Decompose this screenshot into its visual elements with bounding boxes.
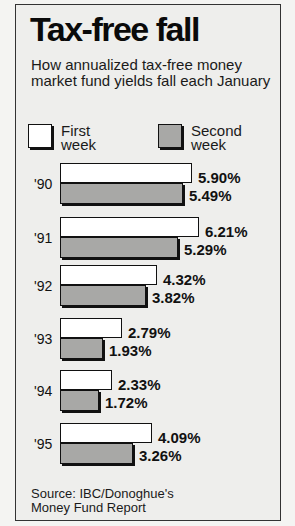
source-line2: Money Fund Report [31, 501, 174, 515]
bar-second-week [60, 285, 146, 306]
chart-frame: Tax-free fall How annualized tax-free mo… [15, 4, 281, 521]
bar-second-week [60, 183, 183, 204]
value-first-week: 2.33% [118, 376, 161, 393]
bar-first-week [60, 318, 122, 338]
bar-second-week [60, 237, 178, 258]
year-label: '95 [34, 436, 52, 452]
legend-label-line2: week [61, 138, 96, 152]
year-label: '93 [34, 331, 52, 347]
value-first-week: 2.79% [128, 324, 171, 341]
bar-second-week [60, 443, 133, 464]
value-second-week: 5.49% [189, 187, 232, 204]
chart-subtitle: How annualized tax-free money market fun… [31, 57, 271, 88]
source-line1: Source: IBC/Donoghue's [31, 487, 174, 501]
year-label: '90 [34, 176, 52, 192]
value-first-week: 4.09% [158, 429, 201, 446]
year-label: '94 [34, 383, 52, 399]
chart-title: Tax-free fall [30, 11, 199, 47]
value-second-week: 5.29% [184, 241, 227, 258]
value-first-week: 4.32% [163, 271, 206, 288]
bar-second-week [60, 390, 99, 411]
value-second-week: 1.72% [105, 394, 148, 411]
source-note: Source: IBC/Donoghue's Money Fund Report [31, 487, 174, 515]
bar-first-week [60, 217, 199, 237]
legend-label: First week [61, 124, 96, 152]
value-second-week: 3.26% [139, 447, 182, 464]
legend-second-week: Second week [158, 124, 242, 152]
legend-swatch-white [28, 124, 52, 148]
bar-first-week [60, 370, 112, 390]
value-second-week: 1.93% [109, 342, 152, 359]
legend-label: Second week [191, 124, 242, 152]
value-second-week: 3.82% [152, 289, 195, 306]
bar-first-week [60, 423, 152, 443]
value-first-week: 5.90% [198, 169, 241, 186]
legend-first-week: First week [28, 124, 96, 152]
bar-second-week [60, 338, 103, 359]
year-label: '92 [34, 278, 52, 294]
value-first-week: 6.21% [205, 223, 248, 240]
year-label: '91 [34, 230, 52, 246]
legend-label-line2: week [191, 138, 242, 152]
bar-first-week [60, 163, 192, 183]
bar-first-week [60, 265, 157, 285]
legend-swatch-gray [158, 124, 182, 148]
